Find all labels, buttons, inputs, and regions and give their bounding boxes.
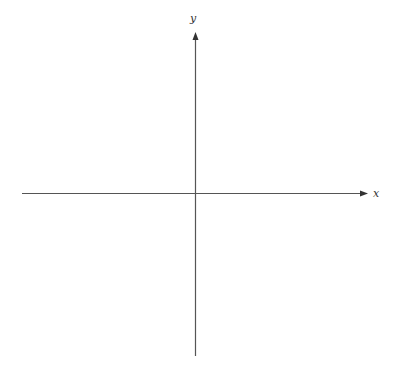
x-axis-label: x (373, 187, 380, 200)
y-axis-label: y (189, 12, 197, 25)
coordinate-plane: y x (0, 0, 403, 368)
x-axis-arrow-icon (360, 191, 368, 197)
y-axis-arrow-icon (193, 32, 199, 40)
